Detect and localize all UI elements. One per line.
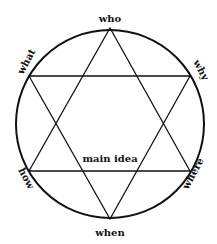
downward-triangle	[29, 76, 190, 219]
label-when: when	[94, 227, 125, 238]
label-how: how	[16, 166, 36, 191]
label-main-idea: main idea	[82, 153, 138, 164]
label-who: who	[98, 13, 122, 24]
label-why: why	[191, 57, 212, 83]
outer-circle	[16, 30, 204, 218]
hexagram-diagram: who when main idea what why how where	[0, 0, 217, 244]
label-where: where	[180, 156, 206, 192]
label-what: what	[15, 47, 38, 77]
